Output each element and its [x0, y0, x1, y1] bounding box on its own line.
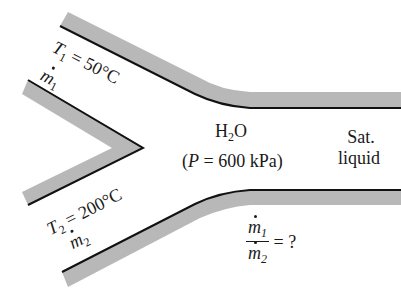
- outlet-line2: liquid: [338, 149, 380, 167]
- ratio-num-symbol: m: [248, 218, 261, 236]
- ratio-den-symbol: m: [248, 244, 261, 262]
- mixing-chamber-diagram: T1 = 50°C m1 T2 = 200°C m2 H2O (P = 600 …: [0, 0, 401, 299]
- pressure-value: = 600 kPa): [199, 151, 283, 171]
- fluid-o: O: [234, 121, 247, 141]
- outlet-line1: Sat.: [342, 128, 380, 146]
- ratio-question: m1 m2 = ?: [246, 218, 296, 265]
- ratio-den-sub: 2: [261, 252, 267, 266]
- fluid-h: H: [215, 121, 228, 141]
- fraction-bar: [246, 241, 269, 242]
- fluid-label: H2O: [215, 122, 247, 143]
- pressure-symbol: P: [188, 151, 199, 171]
- outlet-state: Sat. liquid: [344, 128, 380, 167]
- ratio-num-sub: 1: [261, 226, 267, 240]
- wedge-fill: [22, 80, 143, 205]
- ratio-rhs: = ?: [274, 232, 297, 252]
- upper-wall-fill: [60, 12, 401, 108]
- pressure-label: (P = 600 kPa): [182, 152, 283, 170]
